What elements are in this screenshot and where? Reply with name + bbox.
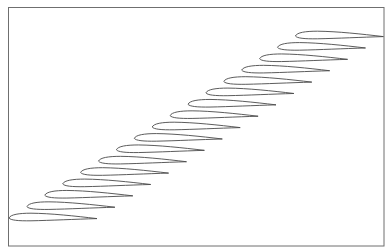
airfoil-profile — [224, 77, 312, 85]
airfoil-profile — [9, 213, 97, 221]
airfoil-profile — [188, 99, 276, 107]
airfoil-profile — [45, 190, 133, 198]
airfoil-profile — [81, 168, 169, 176]
airfoil-profile — [260, 54, 348, 62]
airfoil-profile — [206, 88, 294, 96]
airfoil-profile — [242, 65, 330, 73]
airfoil-profile — [170, 111, 258, 119]
airfoil-profile — [134, 134, 222, 142]
airfoil-profile — [116, 145, 204, 153]
airfoil-profile — [99, 156, 187, 164]
cascade-figure — [0, 0, 392, 252]
plot-frame — [9, 8, 385, 247]
airfoil-profile — [278, 43, 366, 51]
airfoil-cascade-diagram — [0, 0, 392, 252]
airfoil-profile — [27, 202, 115, 210]
airfoil-profile — [63, 179, 151, 187]
airfoil-group — [9, 31, 383, 221]
airfoil-profile — [295, 31, 383, 39]
airfoil-profile — [152, 122, 240, 130]
